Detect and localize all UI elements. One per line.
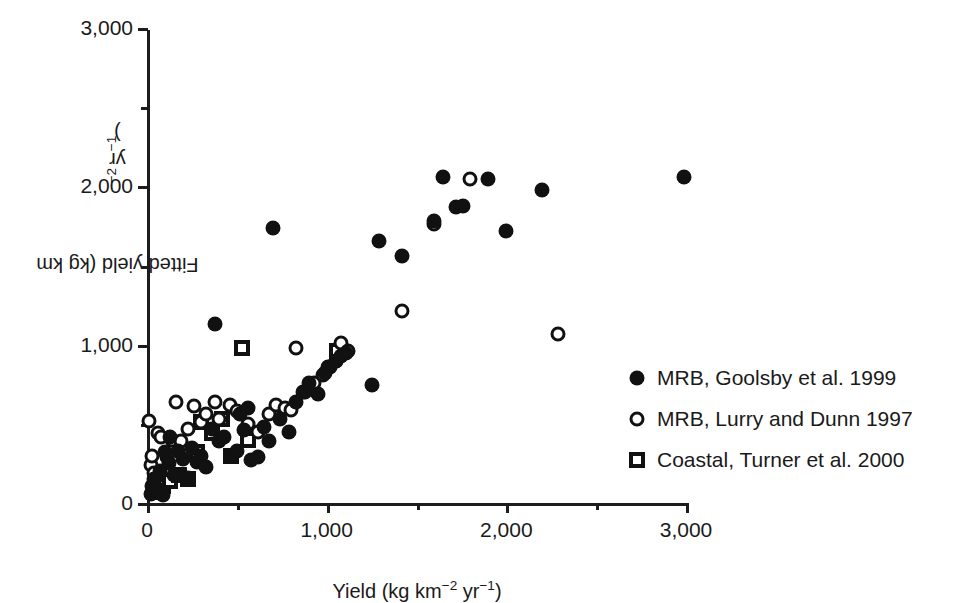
y-tick-label-0: 0 <box>121 491 133 515</box>
x-tick-0 <box>147 503 150 513</box>
y-tick-label-2000: 2,000 <box>80 174 133 198</box>
y-axis-title-suffix: ) <box>114 121 121 144</box>
filled-circle-icon <box>630 370 645 385</box>
data-point <box>436 169 451 184</box>
x-axis-title-mid: yr <box>457 580 479 602</box>
x-tick-label-0: 0 <box>141 518 153 542</box>
data-point <box>237 423 252 438</box>
legend-marker-open-circle-icon <box>626 408 648 430</box>
open-square-icon <box>629 452 645 468</box>
data-point <box>168 394 183 409</box>
data-point <box>310 386 325 401</box>
open-circle-icon <box>630 411 645 426</box>
x-axis-title-suffix: ) <box>495 580 502 602</box>
data-point <box>265 221 280 236</box>
data-point <box>262 434 277 449</box>
data-point <box>289 340 304 355</box>
data-point <box>156 488 171 503</box>
data-point <box>481 172 496 187</box>
data-point <box>499 224 514 239</box>
data-point <box>371 233 386 248</box>
legend-label-1: MRB, Goolsby et al. 1999 <box>657 366 896 390</box>
x-tick-1500 <box>417 503 420 510</box>
data-point <box>166 467 181 482</box>
data-point <box>551 326 566 341</box>
x-axis-title-sup-2: −1 <box>479 578 495 593</box>
y-tick-1000 <box>138 345 148 348</box>
data-point <box>395 303 410 318</box>
data-point <box>456 199 471 214</box>
legend-row-3[interactable]: Coastal, Turner et al. 2000 <box>626 439 946 480</box>
legend-label-2: MRB, Lurry and Dunn 1997 <box>657 407 913 431</box>
plot-area: 01,0002,0003,000 01,0002,0003,000 Yield … <box>147 30 686 505</box>
data-point <box>240 401 255 416</box>
x-tick-2500 <box>596 503 599 510</box>
legend: MRB, Goolsby et al. 1999MRB, Lurry and D… <box>626 357 946 480</box>
scatter-figure: Fitted yield (kg km−2 yr−1) 01,0002,0003… <box>0 0 957 603</box>
y-tick-label-1000: 1,000 <box>80 333 133 357</box>
caption-strip <box>40 592 400 602</box>
x-tick-label-3000: 3,000 <box>660 518 713 542</box>
data-point <box>251 450 266 465</box>
data-point <box>339 345 354 360</box>
legend-marker-filled-circle-icon <box>626 367 648 389</box>
data-point <box>208 317 223 332</box>
y-tick-3000 <box>138 28 148 31</box>
y-tick-2000 <box>138 186 148 189</box>
x-tick-1000 <box>327 503 330 513</box>
legend-row-2[interactable]: MRB, Lurry and Dunn 1997 <box>626 398 946 439</box>
data-point <box>181 470 196 485</box>
x-tick-2000 <box>506 503 509 513</box>
x-axis-title-sup-1: −2 <box>442 578 458 593</box>
data-point <box>208 394 223 409</box>
data-point <box>199 459 214 474</box>
y-tick-1500 <box>141 266 148 269</box>
data-point <box>229 443 244 458</box>
x-tick-label-1000: 1,000 <box>300 518 353 542</box>
y-axis-title-mid: yr <box>109 148 126 171</box>
legend-marker-open-square-icon <box>626 449 648 471</box>
legend-label-3: Coastal, Turner et al. 2000 <box>657 448 904 472</box>
x-tick-label-2000: 2,000 <box>480 518 533 542</box>
data-point <box>677 169 692 184</box>
x-tick-500 <box>237 503 240 510</box>
data-point <box>364 378 379 393</box>
data-point <box>256 420 271 435</box>
data-point <box>427 214 442 229</box>
x-tick-3000 <box>686 503 689 513</box>
data-point <box>281 424 296 439</box>
data-point <box>163 429 178 444</box>
data-point <box>395 249 410 264</box>
legend-row-1[interactable]: MRB, Goolsby et al. 1999 <box>626 357 946 398</box>
data-point <box>234 340 250 356</box>
y-tick-label-3000: 3,000 <box>80 16 133 40</box>
data-point <box>463 172 478 187</box>
data-point <box>217 429 232 444</box>
data-point <box>535 183 550 198</box>
y-tick-2500 <box>141 107 148 110</box>
